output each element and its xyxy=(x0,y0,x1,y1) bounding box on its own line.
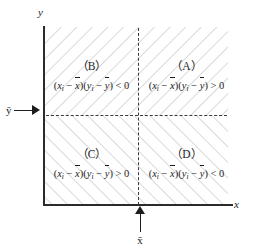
arrow-up-icon xyxy=(135,206,146,232)
y-axis-label: y xyxy=(38,6,43,18)
quadrant-c-tag: （C） xyxy=(44,146,139,163)
x-axis-label: x xyxy=(234,198,239,210)
x-mean-tick: x̄ xyxy=(130,206,150,246)
quadrant-c: （C） (xi − x)(yi − y) > 0 xyxy=(44,146,139,183)
arrow-right-icon xyxy=(14,105,40,116)
covariance-quadrant-figure: y x （B） (xi − x)(yi − y) < 0 （A） (xi − x… xyxy=(0,0,254,251)
x-mean-label: x̄ xyxy=(137,234,143,246)
y-mean-dashed-line xyxy=(46,115,227,116)
quadrant-d: （D） (xi − x)(yi − y) < 0 xyxy=(139,146,234,183)
quadrant-a: （A） (xi − x)(yi − y) > 0 xyxy=(139,58,234,95)
quadrant-d-expression: (xi − x)(yi − y) < 0 xyxy=(139,166,234,183)
y-mean-label: ȳ xyxy=(6,104,12,116)
quadrant-b-expression: (xi − x)(yi − y) < 0 xyxy=(44,78,139,95)
quadrant-d-tag: （D） xyxy=(139,146,234,163)
quadrant-b-tag: （B） xyxy=(44,58,139,75)
quadrant-b: （B） (xi − x)(yi − y) < 0 xyxy=(44,58,139,95)
y-mean-tick: ȳ xyxy=(6,104,40,116)
quadrant-a-expression: (xi − x)(yi − y) > 0 xyxy=(139,78,234,95)
quadrant-c-expression: (xi − x)(yi − y) > 0 xyxy=(44,166,139,183)
quadrant-a-tag: （A） xyxy=(139,58,234,75)
